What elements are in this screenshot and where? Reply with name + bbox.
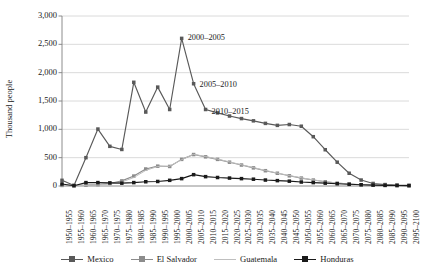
- legend-item[interactable]: Honduras: [294, 254, 353, 264]
- legend-label: El Salvador: [157, 254, 197, 264]
- data-annotation: 2010–2015: [212, 107, 249, 116]
- legend-swatch-icon: [214, 255, 236, 264]
- legend-label: Guatemala: [240, 254, 277, 264]
- legend-swatch-icon: [61, 255, 83, 264]
- legend-label: Honduras: [320, 254, 353, 264]
- data-annotation: 2000–2005: [188, 33, 225, 42]
- chart-legend: MexicoEl SalvadorGuatemalaHonduras: [0, 249, 415, 269]
- legend-item[interactable]: El Salvador: [131, 254, 197, 264]
- legend-swatch-icon: [294, 255, 316, 264]
- data-annotation: 2005–2010: [200, 80, 237, 89]
- legend-item[interactable]: Mexico: [61, 254, 113, 264]
- legend-item[interactable]: Guatemala: [214, 254, 277, 264]
- legend-label: Mexico: [87, 254, 113, 264]
- legend-swatch-icon: [131, 255, 153, 264]
